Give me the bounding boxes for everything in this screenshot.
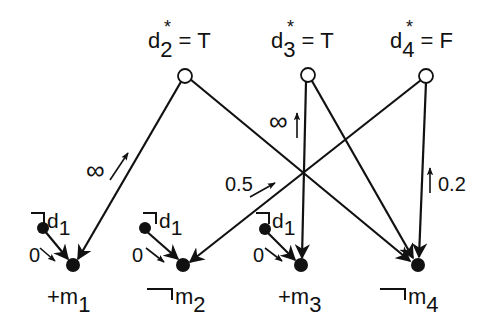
node-m2[interactable]	[176, 258, 190, 272]
edge-d2-m4	[190, 79, 410, 261]
edge-label-d4-m4: 0.2	[438, 174, 466, 194]
flow-arrow-zero-3	[265, 248, 282, 261]
label-base: d	[272, 209, 284, 232]
negation-icon	[31, 212, 45, 224]
negation-icon	[147, 288, 173, 300]
edge-label-inf-d2-m1: ∞	[86, 157, 105, 183]
label-sub: 2	[193, 292, 205, 317]
label-d2-star: d2* = T	[148, 30, 211, 52]
label-prefix: +	[278, 284, 291, 309]
label-base: d	[271, 28, 283, 53]
label-eq: = T	[296, 28, 334, 53]
label-base: d	[47, 209, 59, 232]
negation-icon	[256, 212, 270, 224]
edge-label-d4-m2: 0.5	[225, 174, 253, 194]
label-base: d	[390, 28, 402, 53]
label-eq: = T	[173, 28, 211, 53]
label-sub: 2	[160, 37, 172, 62]
star-mark: *	[406, 18, 413, 36]
label-sub: 1	[284, 216, 296, 239]
top-nodes	[178, 68, 433, 83]
edge-label-inf-d3-m3: ∞	[269, 108, 288, 134]
label-d3-star: d3* = T	[271, 30, 334, 52]
bottom-nodes	[66, 258, 425, 272]
node-m4[interactable]	[411, 258, 425, 272]
edge-d4-m4	[419, 82, 426, 257]
label-not-d1-2: d1	[143, 210, 182, 231]
label-base: d	[159, 209, 171, 232]
label-not-d1-1: d1	[31, 210, 70, 231]
negation-icon	[380, 288, 406, 300]
star-mark: *	[164, 18, 171, 36]
label-m3: +m3	[278, 286, 321, 308]
flow-arrow-d4-m2	[250, 183, 275, 197]
flow-arrow-zero-2	[146, 248, 164, 262]
node-m1[interactable]	[66, 258, 80, 272]
negation-icon	[143, 212, 157, 224]
label-base: m	[408, 284, 426, 309]
edge-label-zero-2: 0	[132, 245, 143, 265]
node-m3[interactable]	[294, 258, 308, 272]
edge-d3-m4	[312, 81, 413, 258]
label-sub: 4	[426, 292, 438, 317]
node-d4-star[interactable]	[419, 69, 433, 83]
node-d2-star[interactable]	[178, 69, 192, 83]
label-base: m	[291, 284, 309, 309]
node-d3-star[interactable]	[301, 68, 315, 82]
label-sub: 1	[171, 216, 183, 239]
label-sub: 3	[309, 292, 321, 317]
edge-label-zero-1: 0	[29, 245, 40, 265]
label-m1: +m1	[47, 286, 90, 308]
label-sub: 4	[402, 37, 414, 62]
edge-label-zero-3: 0	[253, 245, 264, 265]
label-sub: 1	[59, 216, 71, 239]
label-base: d	[148, 28, 160, 53]
label-base: m	[60, 284, 78, 309]
label-eq: = F	[415, 28, 454, 53]
flow-arrow-zero-1	[40, 248, 55, 261]
label-m2: m2	[147, 286, 206, 308]
label-sub: 1	[78, 292, 90, 317]
label-d4-star: d4* = F	[390, 30, 453, 52]
label-m4: m4	[380, 286, 439, 308]
star-mark: *	[287, 18, 294, 36]
label-not-d1-3: d1	[256, 210, 295, 231]
label-sub: 3	[283, 37, 295, 62]
label-prefix: +	[47, 284, 60, 309]
label-base: m	[175, 284, 193, 309]
